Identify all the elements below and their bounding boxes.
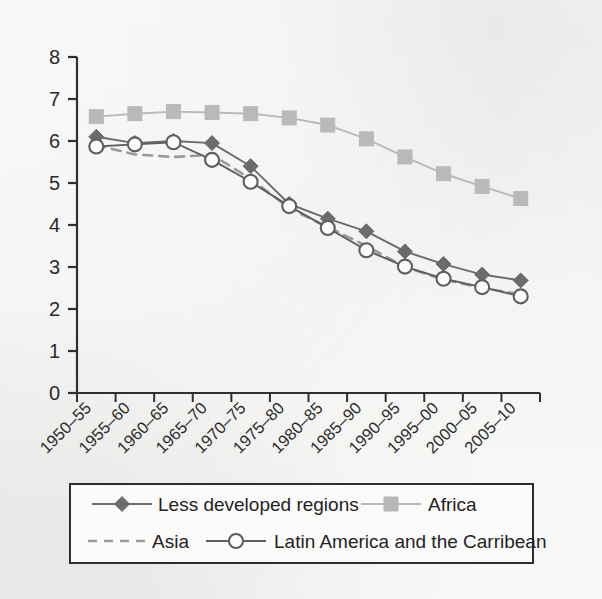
data-point-circle	[205, 153, 219, 167]
data-point-square	[384, 497, 398, 511]
chart-axes	[77, 57, 540, 393]
y-axis-ticks: 012345678	[49, 46, 77, 404]
data-point-circle	[128, 137, 142, 151]
data-point-circle	[244, 175, 258, 189]
data-point-square	[244, 107, 258, 121]
data-point-square	[166, 105, 180, 119]
data-point-square	[398, 150, 412, 164]
y-tick-label: 4	[49, 214, 60, 236]
chart-series-layer	[89, 105, 528, 304]
data-point-circle	[398, 260, 412, 274]
data-point-circle	[514, 289, 528, 303]
data-point-square	[359, 132, 373, 146]
data-point-square	[89, 110, 103, 124]
y-tick-label: 2	[49, 298, 60, 320]
data-point-square	[437, 167, 451, 181]
series-asia	[96, 145, 520, 294]
data-point-square	[128, 107, 142, 121]
chart-page: 012345678 1950–551955–601960–651965–7019…	[0, 0, 602, 599]
data-point-circle	[166, 135, 180, 149]
data-point-circle	[437, 272, 451, 286]
data-point-circle	[475, 280, 489, 294]
fertility-rate-line-chart: 012345678 1950–551955–601960–651965–7019…	[0, 0, 602, 599]
y-tick-label: 6	[49, 130, 60, 152]
series-latin-america-and-the-carribean	[89, 135, 527, 303]
data-point-square	[514, 192, 528, 206]
series-africa	[89, 105, 527, 206]
data-point-diamond	[436, 257, 451, 272]
data-point-diamond	[397, 244, 412, 259]
data-point-circle	[321, 221, 335, 235]
data-point-square	[321, 118, 335, 132]
data-point-square	[475, 179, 489, 193]
data-point-diamond	[205, 136, 220, 151]
series-line	[96, 142, 520, 296]
data-point-circle	[89, 139, 103, 153]
series-line	[96, 145, 520, 294]
x-axis-ticks	[77, 393, 540, 402]
data-point-circle	[229, 534, 243, 548]
data-point-diamond	[359, 224, 374, 239]
legend-label-africa: Africa	[428, 494, 477, 515]
data-point-square	[205, 105, 219, 119]
y-tick-label: 0	[49, 382, 60, 404]
y-tick-label: 1	[49, 340, 60, 362]
series-less-developed-regions	[89, 129, 528, 288]
legend-label-latin-america: Latin America and the Carribean	[274, 531, 547, 552]
y-tick-label: 8	[49, 46, 60, 68]
y-tick-label: 7	[49, 88, 60, 110]
chart-legend: Less developed regionsAfricaAsiaLatin Am…	[70, 484, 547, 563]
y-tick-label: 3	[49, 256, 60, 278]
legend-label-less-developed-regions: Less developed regions	[158, 494, 359, 515]
legend-label-asia: Asia	[152, 531, 189, 552]
data-point-circle	[359, 243, 373, 257]
series-line	[96, 137, 520, 281]
y-tick-label: 5	[49, 172, 60, 194]
data-point-diamond	[513, 273, 528, 288]
data-point-circle	[282, 199, 296, 213]
x-axis-labels: 1950–551955–601960–651965–701970–751975–…	[36, 398, 519, 456]
data-point-square	[282, 111, 296, 125]
